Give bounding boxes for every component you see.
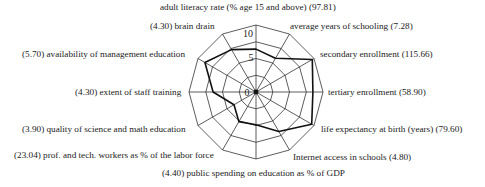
- tick-label-10: 10: [243, 28, 253, 39]
- axis-label-management-education: (5.70) availability of management educat…: [22, 49, 185, 60]
- axis-label-average-years-schooling: average years of schooling (7.28): [290, 21, 413, 32]
- tick-label-5: 5: [249, 52, 254, 63]
- axis-label-life-expectancy: life expectancy at birth (years) (79.60): [321, 124, 462, 135]
- axis-label-brain-drain: (4.30) brain drain: [150, 21, 215, 32]
- grid-spoke: [223, 34, 257, 92]
- tick-label-0: 0: [245, 87, 250, 98]
- axis-label-staff-training: (4.30) extent of staff training: [75, 87, 181, 98]
- axis-label-tertiary-enrollment: tertiary enrollment (58.90): [328, 87, 426, 98]
- grid-spoke: [256, 34, 290, 92]
- axis-label-secondary-enrollment: secondary enrollment (115.66): [320, 49, 433, 60]
- axis-label-public-spending: (4.40) public spending on education as %…: [162, 168, 345, 179]
- axis-label-internet-access: Internet access in schools (4.80): [293, 152, 411, 163]
- axis-label-adult-literacy: adult literacy rate (% age 15 and above)…: [160, 2, 336, 13]
- axis-label-science-math-quality: (3.90) quality of science and math educa…: [22, 124, 186, 135]
- center-dot: [254, 90, 259, 95]
- axis-label-prof-tech-workers: (23.04) prof. and tech. workers as % of …: [14, 150, 214, 161]
